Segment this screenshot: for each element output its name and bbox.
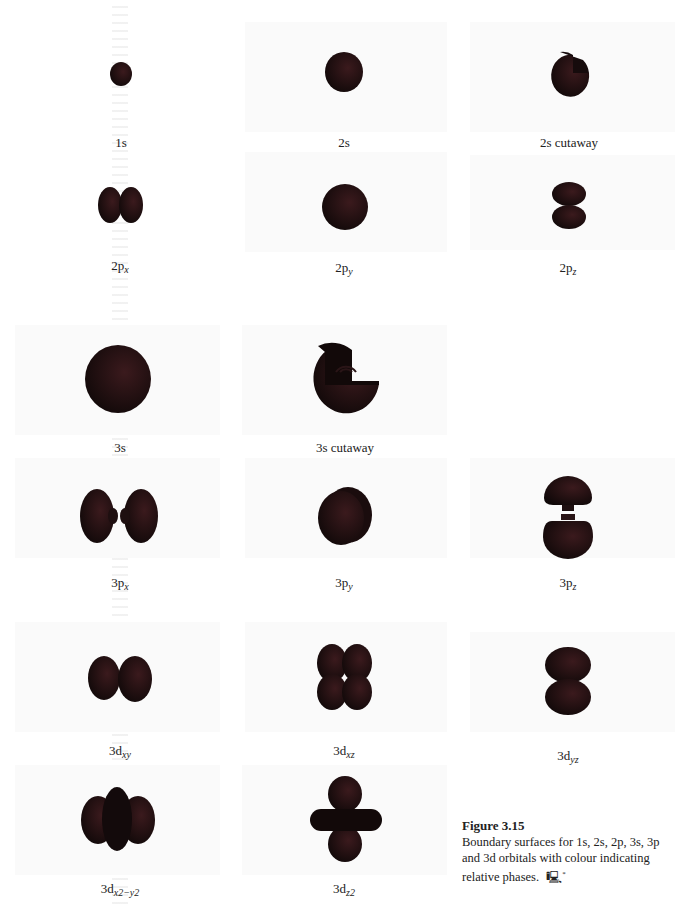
label-3dyz: 3dyz xyxy=(488,748,648,764)
computer-icon[interactable]: 🖳︎* xyxy=(546,866,566,885)
orbital-2s-cutaway-shape xyxy=(551,52,589,97)
label-3s-cutaway: 3s cutaway xyxy=(265,440,425,456)
orbital-3s-cutaway-shape xyxy=(313,343,379,414)
label-3s: 3s xyxy=(40,440,200,456)
orbital-2py-shape xyxy=(322,184,368,230)
label-2py: 2py xyxy=(264,260,424,276)
orbital-2pz-shape xyxy=(552,182,586,229)
label-3dxz: 3dxz xyxy=(264,743,424,759)
label-2pz: 2pz xyxy=(488,260,648,276)
orbital-3dxz-shape xyxy=(317,644,372,710)
orbital-2px-shape xyxy=(98,187,143,223)
orbital-3dyz-shape xyxy=(545,647,591,715)
label-3dz2: 3dz2 xyxy=(264,881,424,897)
orbital-3s-shape xyxy=(85,345,151,413)
orbital-3pz-shape xyxy=(543,476,593,559)
orbital-2s-shape xyxy=(325,52,363,92)
orbital-3dx2-y2-shape xyxy=(81,787,155,851)
label-3dxy: 3dxy xyxy=(40,743,200,759)
figure-number: Figure 3.15 xyxy=(462,818,677,834)
orbital-3px-shape xyxy=(80,489,158,543)
label-2px: 2px xyxy=(40,258,200,274)
orbital-3py-shape xyxy=(318,487,372,545)
label-3py: 3py xyxy=(264,575,424,591)
label-3pz: 3pz xyxy=(488,575,648,591)
label-2s-cutaway: 2s cutaway xyxy=(489,135,649,151)
orbital-1s-shape xyxy=(110,62,132,86)
orbital-3dz2-shape xyxy=(310,776,382,862)
label-2s: 2s xyxy=(264,135,424,151)
orbital-3dxy-shape xyxy=(88,656,152,702)
label-3px: 3px xyxy=(40,575,200,591)
label-3dx2-y2: 3dx2−y2 xyxy=(40,881,200,897)
label-1s: 1s xyxy=(41,135,201,151)
figure-caption: Figure 3.15 Boundary surfaces for 1s, 2s… xyxy=(462,818,677,885)
